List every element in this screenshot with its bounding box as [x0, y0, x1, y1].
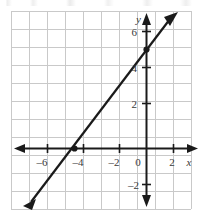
plotted-line — [23, 12, 178, 210]
x-intercept-point — [71, 145, 77, 151]
coordinate-plane-figure: –6 –4 –2 0 2 6 4 2 –2 y x — [0, 0, 212, 214]
x-tick-label-minus2: –2 — [108, 156, 120, 168]
y-axis — [142, 13, 151, 207]
y-tick-label-4: 4 — [132, 62, 138, 74]
x-tick-label-minus4: –4 — [72, 156, 85, 168]
y-tick-label-6: 6 — [132, 26, 138, 38]
y-intercept-point — [143, 46, 149, 52]
x-axis-right-arrow — [187, 144, 198, 153]
y-axis-name: y — [135, 13, 141, 25]
x-axis — [14, 144, 198, 153]
x-tick-label-zero: 0 — [135, 156, 141, 168]
x-axis-name: x — [186, 156, 192, 168]
y-tick-label-minus2: –2 — [127, 179, 139, 191]
scan-artifact — [0, 0, 212, 6]
y-axis-up-arrow — [142, 13, 151, 25]
graph-svg: –6 –4 –2 0 2 6 4 2 –2 y x — [0, 0, 212, 214]
x-axis-left-arrow — [14, 144, 25, 153]
y-tick-label-2: 2 — [132, 98, 138, 110]
y-axis-down-arrow — [142, 195, 151, 207]
x-tick-label-2: 2 — [169, 156, 175, 168]
x-tick-label-minus6: –6 — [36, 156, 49, 168]
